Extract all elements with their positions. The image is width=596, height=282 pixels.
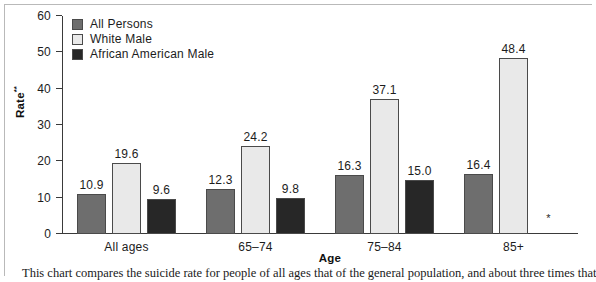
legend-swatch-icon bbox=[72, 49, 83, 60]
bar: 10.9 bbox=[77, 194, 106, 234]
y-axis-tick-label: 50 bbox=[37, 45, 51, 59]
legend-item: African American Male bbox=[72, 47, 214, 61]
bar: 15.0 bbox=[405, 180, 434, 235]
bar-value-label: 12.3 bbox=[208, 173, 232, 187]
bar-value-label: 19.6 bbox=[114, 147, 138, 161]
bar-value-label: 16.3 bbox=[337, 159, 361, 173]
legend-item-label: All Persons bbox=[90, 17, 153, 31]
legend-swatch-icon bbox=[72, 34, 83, 45]
bar-group: 16.448.4*85+ bbox=[449, 16, 578, 234]
bar-value-label: 16.4 bbox=[466, 158, 490, 172]
bar: 37.1 bbox=[370, 99, 399, 234]
bar-group: 16.337.115.075–84 bbox=[320, 16, 449, 234]
caption-column-left: This chart compares the suicide rate for… bbox=[0, 266, 300, 281]
chart-legend: All PersonsWhite MaleAfrican American Ma… bbox=[72, 17, 214, 62]
y-axis-tick-label: 40 bbox=[37, 82, 51, 96]
bar: 16.4 bbox=[464, 174, 493, 234]
legend-item: All Persons bbox=[72, 17, 214, 31]
legend-item-label: White Male bbox=[90, 32, 152, 46]
y-axis-title: Rate** bbox=[12, 86, 26, 118]
bar-value-label: 9.6 bbox=[153, 183, 170, 197]
bar-value-label: 10.9 bbox=[79, 178, 103, 192]
legend-item-label: African American Male bbox=[90, 47, 214, 61]
bar: 9.8 bbox=[276, 198, 305, 234]
x-axis-title: Age bbox=[0, 252, 596, 264]
bar: 12.3 bbox=[206, 189, 235, 234]
bar-value-label: 37.1 bbox=[372, 83, 396, 97]
y-axis-title-superscript: ** bbox=[12, 86, 21, 92]
y-axis-tick-label: 10 bbox=[37, 191, 51, 205]
bar-value-label: 15.0 bbox=[407, 164, 431, 178]
caption-column-right: that of the general population, and abou… bbox=[300, 266, 596, 281]
legend-item: White Male bbox=[72, 32, 214, 46]
bar-value-label: 9.8 bbox=[282, 182, 299, 196]
bar: 16.3 bbox=[335, 175, 364, 234]
bar: 9.6 bbox=[147, 199, 176, 234]
y-axis-tick-label: 30 bbox=[37, 118, 51, 132]
figure-caption: This chart compares the suicide rate for… bbox=[0, 266, 596, 281]
figure-frame-left-rule bbox=[4, 4, 5, 276]
bar: 48.4 bbox=[499, 58, 528, 234]
y-axis-title-text: Rate bbox=[14, 92, 26, 118]
figure-frame-top-rule bbox=[4, 4, 592, 5]
x-axis-title-text: Age bbox=[319, 252, 341, 264]
bar-value-label: 24.2 bbox=[243, 130, 267, 144]
bar: 24.2 bbox=[241, 146, 270, 234]
suicide-rate-bar-chart-figure: Rate** 0102030405060 10.919.69.6All ages… bbox=[0, 0, 596, 282]
bar: 19.6 bbox=[112, 163, 141, 234]
legend-swatch-icon bbox=[72, 19, 83, 30]
y-axis-tick-label: 60 bbox=[37, 9, 51, 23]
y-axis-tick-label: 0 bbox=[44, 227, 51, 241]
bar-value-label: 48.4 bbox=[501, 42, 525, 56]
suppressed-value-marker: * bbox=[546, 216, 550, 220]
y-axis-tick-label: 20 bbox=[37, 154, 51, 168]
